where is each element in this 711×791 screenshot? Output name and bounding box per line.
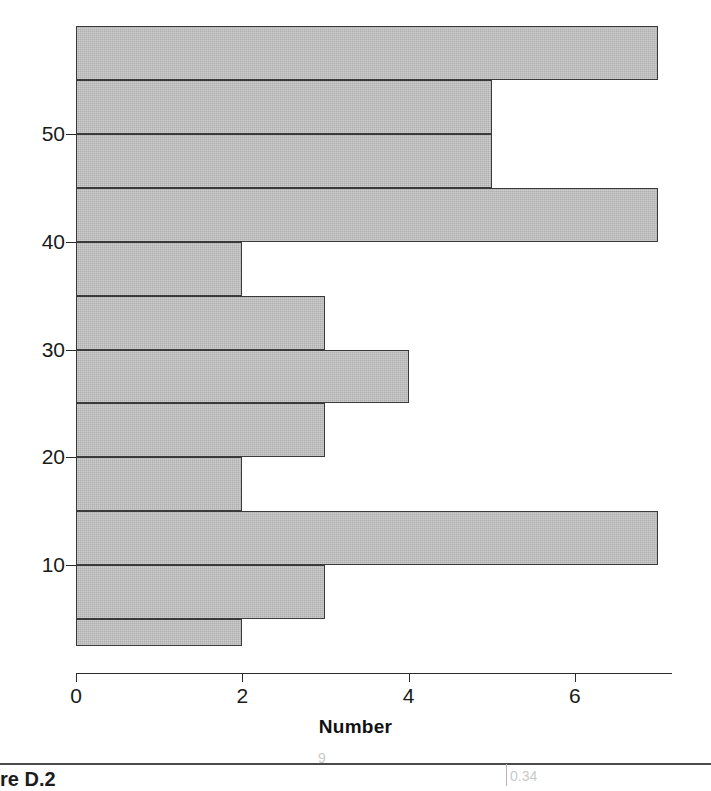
bar [76,188,658,242]
plot-area [76,29,658,673]
x-tick-label: 0 [70,684,82,708]
bar [76,26,658,80]
y-tick [66,565,76,566]
bar [76,80,492,134]
bar [76,403,325,457]
page-bleed-separator [506,764,507,786]
page-rule [0,763,711,765]
x-tick [409,673,410,682]
bar [76,350,409,404]
y-tick-label: 50 [42,122,65,146]
x-tick-label: 2 [236,684,248,708]
x-axis-line [76,673,672,674]
bar [76,134,492,188]
y-tick-label: 20 [42,445,65,469]
page-bleed-mark-2: 0.34 [510,768,537,784]
x-axis-title: Number [0,716,711,738]
page-bleed-mark-1: 9 [318,750,326,766]
y-tick-label: 30 [42,338,65,362]
bar [76,242,242,296]
bar [76,457,242,511]
y-tick-label: 10 [42,553,65,577]
x-tick [242,673,243,682]
bar [76,511,658,565]
y-tick [66,134,76,135]
y-tick-label: 40 [42,230,65,254]
x-tick [76,673,77,682]
x-tick [575,673,576,682]
bar [76,565,325,619]
x-tick-label: 4 [403,684,415,708]
y-tick [66,242,76,243]
bar [76,619,242,646]
x-tick-label: 6 [569,684,581,708]
figure-caption: re D.2 [0,768,56,791]
y-tick [66,457,76,458]
bar [76,296,325,350]
y-tick [66,350,76,351]
histogram-figure: 0246 1020304050 Number re D.2 9 0.34 [0,0,711,791]
